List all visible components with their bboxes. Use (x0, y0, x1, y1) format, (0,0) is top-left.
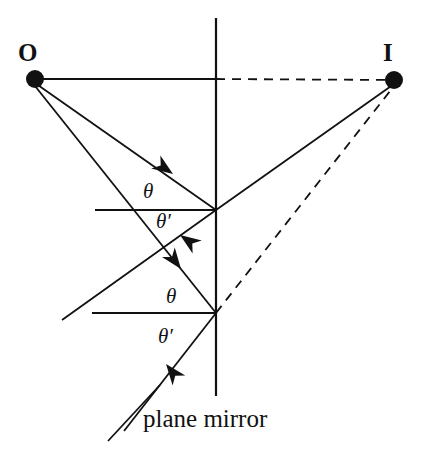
reflection-angle-label-lower: θ′ (158, 326, 173, 347)
arrowheads-layer (151, 155, 202, 385)
arrow-incident-1 (151, 155, 177, 180)
incidence-angle-label-upper: θ (143, 181, 153, 202)
incident-ray-1 (35, 83, 216, 210)
plane-mirror-figure: O I θ θ′ θ θ′ plane mirror (0, 0, 428, 459)
virtual-ray-1 (216, 84, 394, 210)
incident-ray-2 (35, 86, 216, 313)
I-marker (385, 71, 403, 89)
incidence-angle-label-lower: θ (166, 286, 176, 307)
virtual-ray-2 (216, 86, 394, 313)
segments-layer (35, 18, 394, 441)
object-point-label: O (18, 40, 37, 65)
image-point-label: I (383, 40, 393, 65)
reflected-ray-1 (62, 210, 216, 320)
ray-diagram-svg (0, 0, 428, 459)
arrow-reflected-1 (175, 228, 201, 253)
axis-mirror-to-I (216, 79, 394, 80)
plane-mirror-caption: plane mirror (143, 406, 267, 431)
O-marker (26, 70, 44, 88)
reflection-angle-label-upper: θ′ (156, 211, 171, 232)
